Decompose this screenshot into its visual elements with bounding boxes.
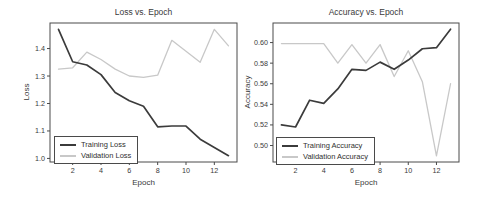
svg-text:0.52: 0.52 [254,120,268,129]
loss-y-axis-label: Loss [22,84,31,101]
svg-text:10: 10 [404,166,412,175]
svg-text:1.3: 1.3 [35,72,45,81]
legend-item-training-loss: Training Loss [60,140,131,149]
svg-text:0.50: 0.50 [254,141,268,150]
legend-label: Validation Loss [81,151,131,160]
legend-label: Training Loss [81,140,126,149]
svg-text:10: 10 [182,166,190,175]
svg-text:6: 6 [127,166,131,175]
svg-text:1.4: 1.4 [35,44,45,53]
legend-item-training-accuracy: Training Accuracy [282,141,368,150]
plot-canvas: 246810121.01.11.21.31.4246810120.500.520… [0,0,482,201]
accuracy-x-axis-label: Epoch [273,178,459,187]
legend-item-validation-loss: Validation Loss [60,151,131,160]
svg-text:6: 6 [350,166,354,175]
training-loss-line-swatch [60,144,76,146]
svg-text:0.58: 0.58 [254,59,268,68]
svg-text:1.1: 1.1 [35,126,45,135]
svg-text:8: 8 [378,166,382,175]
svg-text:1.0: 1.0 [35,154,45,163]
svg-text:4: 4 [99,166,103,175]
loss-chart-title: Loss vs. Epoch [50,7,237,17]
legend-label: Training Accuracy [303,141,362,150]
legend-label: Validation Accuracy [303,152,368,161]
accuracy-chart-title: Accuracy vs. Epoch [273,7,459,17]
svg-text:4: 4 [322,166,326,175]
svg-text:0.54: 0.54 [254,100,268,109]
svg-text:1.2: 1.2 [35,99,45,108]
validation-loss-line-swatch [60,155,76,157]
svg-text:0.60: 0.60 [254,38,268,47]
validation-accuracy-line-swatch [282,156,298,158]
accuracy-y-axis-label: Accuracy [243,76,252,109]
svg-text:2: 2 [294,166,298,175]
svg-text:12: 12 [432,166,440,175]
svg-text:2: 2 [71,166,75,175]
loss-x-axis-label: Epoch [50,178,237,187]
legend-item-validation-accuracy: Validation Accuracy [282,152,368,161]
svg-text:0.56: 0.56 [254,79,268,88]
accuracy-legend: Training Accuracy Validation Accuracy [276,137,375,165]
figure: 246810121.01.11.21.31.4246810120.500.520… [0,0,482,201]
training-accuracy-line-swatch [282,145,298,147]
loss-legend: Training Loss Validation Loss [54,136,138,164]
svg-text:12: 12 [210,166,218,175]
svg-text:8: 8 [156,166,160,175]
